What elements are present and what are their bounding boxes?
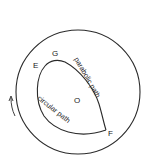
orbit-diagram: E G F O parabolic path circular path bbox=[0, 0, 150, 162]
outer-circle bbox=[16, 30, 140, 154]
rotation-arrow-icon bbox=[9, 96, 15, 116]
label-g: G bbox=[52, 49, 58, 58]
label-f: F bbox=[108, 129, 113, 138]
label-e: E bbox=[33, 61, 38, 70]
parabolic-path-label: parabolic path bbox=[72, 56, 102, 100]
circular-path-label: circular path bbox=[36, 93, 72, 124]
label-o-center: O bbox=[74, 96, 80, 105]
